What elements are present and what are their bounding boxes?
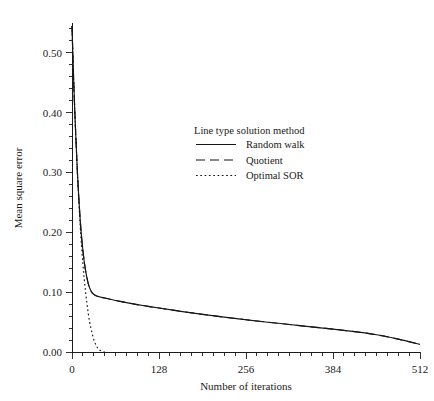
chart-figure: 0.000.100.200.300.400.50 0128256384512 L… — [0, 0, 434, 401]
y-axis-tick-label: 0.30 — [43, 166, 63, 178]
x-axis-tick-label: 512 — [412, 363, 429, 375]
legend-title: Line type solution method — [194, 125, 305, 136]
legend-entry-label: Quotient — [246, 155, 283, 166]
mean-square-error-line-chart: 0.000.100.200.300.400.50 0128256384512 L… — [0, 0, 434, 401]
x-axis-tick-label: 256 — [238, 363, 255, 375]
x-axis-tick-label: 128 — [151, 363, 168, 375]
chart-background — [0, 0, 434, 401]
y-axis-tick-label: 0.50 — [43, 47, 63, 59]
x-axis-tick-label: 384 — [325, 363, 342, 375]
y-axis-tick-label: 0.10 — [43, 286, 63, 298]
x-axis-tick-label: 0 — [69, 363, 75, 375]
y-axis-tick-label: 0.20 — [43, 226, 63, 238]
y-axis-title: Mean square error — [12, 147, 24, 228]
legend-entry-label: Optimal SOR — [246, 170, 303, 181]
y-axis-tick-label: 0.00 — [43, 346, 63, 358]
legend-entry-label: Random walk — [246, 139, 305, 150]
y-axis-tick-label: 0.40 — [43, 107, 63, 119]
x-axis-title: Number of iterations — [200, 380, 292, 392]
